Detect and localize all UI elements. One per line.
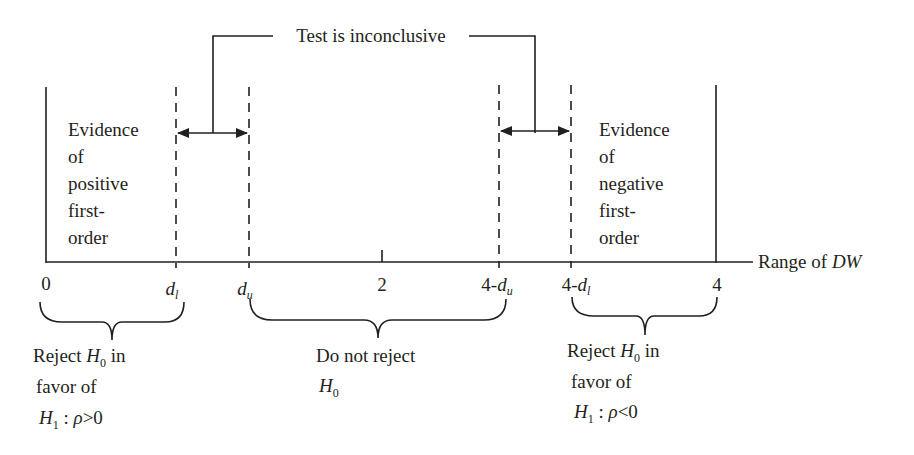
svg-text:H0: H0 bbox=[318, 375, 339, 400]
middle-decision-brace bbox=[250, 299, 506, 338]
tick-label-2: 2 bbox=[377, 274, 387, 295]
region-text-line: of bbox=[599, 146, 616, 167]
region-text-line: order bbox=[68, 227, 109, 248]
svg-text:H1 : ρ<0: H1 : ρ<0 bbox=[573, 401, 638, 426]
svg-text:favor of: favor of bbox=[36, 376, 97, 397]
inconclusive-bracket: Test is inconclusive bbox=[213, 25, 535, 133]
positive-autocorrelation-region: Evidence of positive first- order bbox=[68, 119, 139, 248]
tick-label-4-minus-dl: 4-dl bbox=[562, 274, 591, 298]
region-text-line: first- bbox=[599, 200, 636, 221]
region-text-line: Evidence bbox=[68, 119, 139, 140]
right-decision-brace bbox=[572, 297, 717, 335]
svg-text:Do not reject: Do not reject bbox=[316, 345, 416, 366]
middle-decision-text: Do not reject H0 bbox=[316, 345, 416, 400]
left-decision-brace bbox=[40, 302, 184, 340]
svg-text:Reject H0 in: Reject H0 in bbox=[567, 340, 660, 365]
svg-text:favor of: favor of bbox=[571, 371, 632, 392]
tick-label-4: 4 bbox=[712, 274, 722, 295]
negative-autocorrelation-region: Evidence of negative first- order bbox=[599, 119, 670, 248]
bracket-right-leader bbox=[469, 36, 535, 133]
region-text-line: order bbox=[599, 227, 640, 248]
durbin-watson-diagram: Test is inconclusive Range of DW 0 dl du… bbox=[0, 0, 914, 455]
region-text-line: negative bbox=[599, 173, 663, 194]
region-text-line: of bbox=[68, 146, 85, 167]
region-text-line: first- bbox=[68, 200, 105, 221]
right-decision-text: Reject H0 in favor of H1 : ρ<0 bbox=[567, 340, 660, 426]
tick-label-dl: dl bbox=[166, 278, 180, 302]
svg-text:Reject H0 in: Reject H0 in bbox=[33, 345, 126, 370]
bracket-left-leader bbox=[213, 36, 273, 133]
svg-text:H1 : ρ>0: H1 : ρ>0 bbox=[38, 407, 103, 432]
tick-label-du: du bbox=[237, 278, 253, 302]
tick-label-0: 0 bbox=[41, 273, 51, 294]
axis-label: Range of DW bbox=[758, 251, 864, 272]
inconclusive-label: Test is inconclusive bbox=[296, 25, 446, 46]
tick-label-4-minus-du: 4-du bbox=[481, 274, 512, 298]
left-decision-text: Reject H0 in favor of H1 : ρ>0 bbox=[33, 345, 126, 432]
region-text-line: Evidence bbox=[599, 119, 670, 140]
region-text-line: positive bbox=[68, 173, 128, 194]
